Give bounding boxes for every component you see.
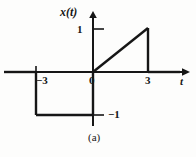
figure-caption: (a) (88, 132, 100, 143)
t-axis-arrowhead (182, 68, 190, 76)
y-axis-label: x(t) (60, 6, 77, 18)
x-tick-label-neg-three: −3 (36, 75, 48, 86)
x-axis-arrowhead (89, 11, 97, 18)
x-tick-label-three: 3 (145, 75, 151, 86)
y-tick-label-one: 1 (77, 24, 83, 35)
signal-plot-figure: x(t) t 1 −1 0 3 −3 (a) (0, 0, 196, 157)
segment-ramp-0-to-3 (93, 28, 148, 72)
x-axis-label: t (180, 76, 183, 87)
y-tick-label-neg-one: −1 (108, 109, 120, 120)
x-tick-label-zero: 0 (89, 75, 95, 86)
